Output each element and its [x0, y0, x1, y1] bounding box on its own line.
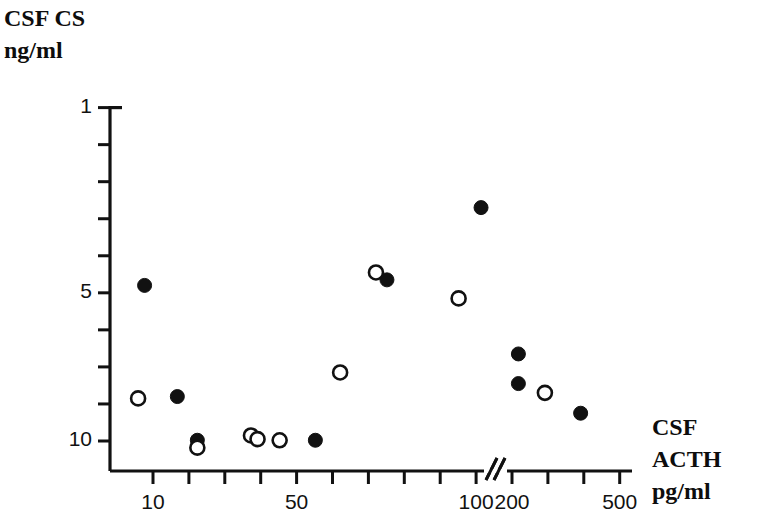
x-axis-tick-label: 50 [257, 490, 337, 514]
x-axis-title: CSFACTHpg/ml [652, 411, 721, 507]
data-point-open [251, 432, 265, 446]
x-axis-tick-label: 10 [113, 490, 193, 514]
data-point-open [273, 433, 287, 447]
data-point-filled [511, 377, 525, 391]
y-axis-title-line2: ng/ml [4, 37, 63, 63]
data-point-filled [170, 390, 184, 404]
data-point-filled [574, 406, 588, 420]
data-point-open [333, 365, 347, 379]
x-axis-title-line1: CSF [652, 414, 697, 440]
data-point-filled [138, 278, 152, 292]
x-axis-tick-label: 200 [472, 490, 552, 514]
y-axis-tick-label: 5 [40, 279, 92, 303]
data-point-open [190, 441, 204, 455]
x-axis-title-line2: ACTH [652, 446, 721, 472]
data-point-open [131, 391, 145, 405]
x-axis-tick-label: 500 [580, 490, 660, 514]
data-point-filled [474, 201, 488, 215]
x-axis-ticks [153, 471, 620, 484]
y-axis-tick-label: 10 [40, 427, 92, 451]
data-points-group [131, 201, 588, 455]
data-point-filled [511, 347, 525, 361]
y-axis-title-line1: CSF CS [4, 5, 85, 31]
y-axis-tick-label: 1 [40, 94, 92, 118]
scatter-plot-figure: CSF CSng/ml CSFACTHpg/ml 1051 1050100200… [0, 0, 765, 529]
data-point-open [538, 386, 552, 400]
y-axis-ticks [98, 108, 110, 441]
data-point-open [369, 265, 383, 279]
data-point-filled [308, 433, 322, 447]
x-axis-title-line3: pg/ml [652, 478, 711, 504]
x-axis-break-marker [484, 458, 507, 480]
data-point-open [452, 291, 466, 305]
axis-lines [110, 106, 632, 471]
y-axis-title: CSF CSng/ml [4, 2, 85, 66]
plot-canvas [0, 0, 765, 529]
